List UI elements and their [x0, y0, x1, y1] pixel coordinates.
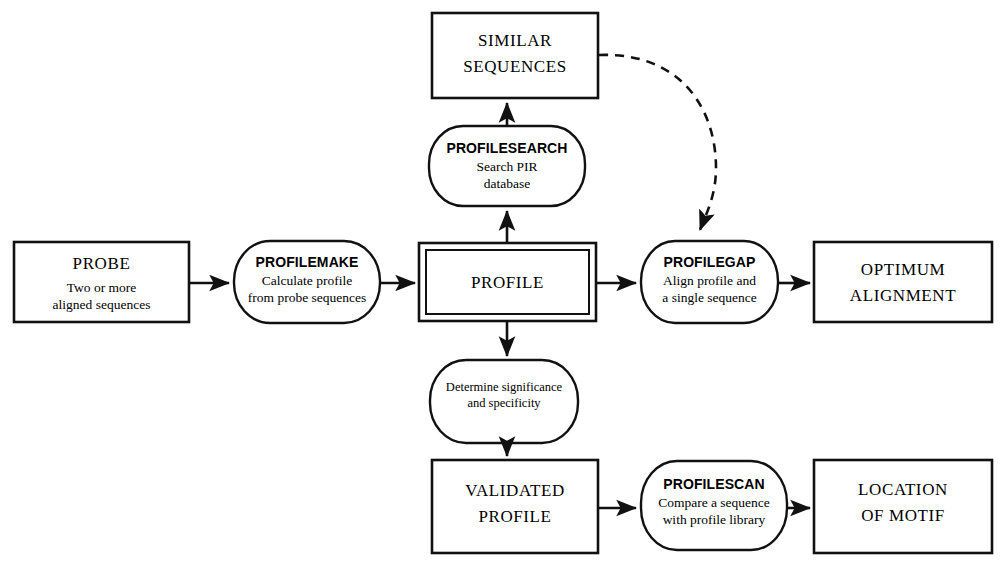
node-profile-inner — [426, 250, 589, 314]
node-determine-significance — [430, 360, 578, 443]
node-probe — [14, 242, 189, 322]
flowchart-svg — [0, 0, 1005, 563]
node-profilemake — [234, 241, 380, 323]
edge-similar-sequences-to-profilegap — [599, 55, 716, 230]
node-validated-profile — [432, 460, 598, 553]
node-profilesearch — [429, 126, 585, 206]
flowchart-canvas: SIMILAR SEQUENCES PROFILESEARCH Search P… — [0, 0, 1005, 563]
node-profilescan — [641, 461, 787, 550]
node-optimum-alignment — [814, 242, 992, 322]
node-similar-sequences — [432, 13, 598, 98]
node-location-of-motif — [814, 460, 992, 553]
node-profilegap — [641, 241, 778, 323]
